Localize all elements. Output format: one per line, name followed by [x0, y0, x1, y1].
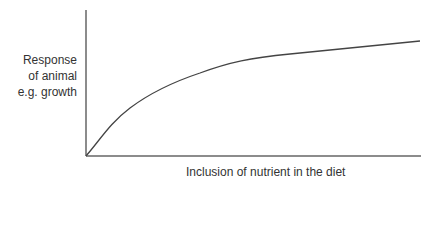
y-axis-label-line-2: of animal	[0, 68, 77, 84]
response-curve	[86, 41, 420, 156]
y-axis-label: Response of animal e.g. growth	[0, 52, 77, 100]
x-axis-label: Inclusion of nutrient in the diet	[186, 165, 345, 179]
y-axis-label-line-1: Response	[0, 52, 77, 68]
y-axis-label-line-3: e.g. growth	[0, 84, 77, 100]
